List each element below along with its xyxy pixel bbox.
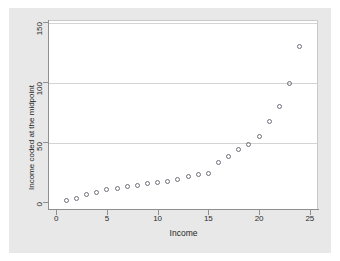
data-point: [267, 119, 272, 124]
data-point: [277, 104, 282, 109]
y-tick-label: 150: [36, 22, 44, 62]
gridline: [48, 143, 317, 144]
y-axis-title: Income coded at the midpoint: [27, 85, 36, 190]
y-tick-label: 50: [36, 142, 44, 182]
scatter-plot-figure: 050100150 0510152025 Income coded at the…: [0, 0, 340, 261]
y-tick-label: 0: [36, 202, 44, 242]
data-point: [135, 183, 140, 188]
data-point: [74, 196, 79, 201]
data-point: [125, 184, 130, 189]
plot-area: [48, 20, 318, 209]
x-tick-label: 15: [196, 214, 220, 223]
x-tick-label: 5: [95, 214, 119, 223]
gridline: [48, 83, 317, 84]
data-point: [94, 190, 99, 195]
data-point: [115, 186, 120, 191]
data-point: [257, 134, 262, 139]
x-tick-label: 20: [247, 214, 271, 223]
data-point: [64, 198, 69, 203]
x-axis-title: Income: [48, 228, 319, 238]
data-point: [287, 81, 292, 86]
data-point: [216, 160, 221, 165]
x-axis-line: [48, 209, 319, 210]
x-tick-label: 10: [146, 214, 170, 223]
y-tick-label: 100: [36, 82, 44, 122]
x-tick-label: 0: [44, 214, 68, 223]
data-point: [206, 171, 211, 176]
gridline: [48, 23, 317, 24]
data-point: [186, 174, 191, 179]
y-axis-line: [48, 20, 49, 210]
x-tick-label: 25: [298, 214, 322, 223]
data-point: [196, 172, 201, 177]
